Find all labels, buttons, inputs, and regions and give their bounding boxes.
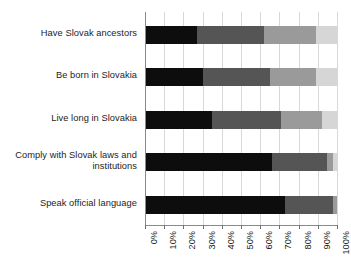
x-tick-label-20: 20% (187, 231, 197, 249)
bar-segment-1 (145, 68, 203, 86)
bar-row (145, 68, 337, 86)
bar-segment-1 (145, 196, 285, 214)
bar-segment-2 (212, 111, 281, 129)
x-tick-30 (203, 225, 204, 229)
x-tick-label-50: 50% (245, 231, 255, 249)
bar-segment-4 (316, 26, 337, 44)
x-tick-label-60: 60% (264, 231, 274, 249)
y-axis-category-labels: Have Slovak ancestors Be born in Slovaki… (0, 12, 141, 225)
bar-segment-3 (264, 26, 316, 44)
x-tick-label-10: 10% (168, 231, 178, 249)
x-axis-tick-labels: 0%10%20%30%40%50%60%70%80%90%100% (145, 231, 337, 271)
bar-segment-2 (203, 68, 270, 86)
x-tick-50 (241, 225, 242, 229)
y-axis-label-1: Be born in Slovakia (0, 70, 137, 81)
y-axis-label-2: Live long in Slovakia (0, 113, 137, 124)
x-tick-90 (318, 225, 319, 229)
bar-segment-3 (270, 68, 316, 86)
bar-row (145, 26, 337, 44)
bar-segment-1 (145, 153, 272, 171)
bar-segment-1 (145, 26, 197, 44)
gridline-100 (337, 12, 338, 225)
bar-segment-2 (272, 153, 328, 171)
bar-segment-3 (281, 111, 321, 129)
x-tick-label-30: 30% (207, 231, 217, 249)
bar-row (145, 196, 337, 214)
bar-segment-3 (333, 196, 337, 214)
bar-segment-4 (316, 68, 337, 86)
y-axis-line (145, 12, 146, 225)
bar-row (145, 111, 337, 129)
plot-area (145, 12, 337, 225)
x-tick-label-0: 0% (149, 231, 159, 244)
x-tick-label-100: 100% (341, 231, 351, 255)
bar-segment-1 (145, 111, 212, 129)
x-tick-40 (222, 225, 223, 229)
x-tick-label-80: 80% (303, 231, 313, 249)
y-axis-label-0: Have Slovak ancestors (0, 28, 137, 39)
x-tick-100 (337, 225, 338, 229)
bar-segment-4 (333, 153, 337, 171)
x-tick-70 (279, 225, 280, 229)
x-tick-60 (260, 225, 261, 229)
x-tick-80 (299, 225, 300, 229)
x-tick-10 (164, 225, 165, 229)
y-axis-label-3: Comply with Slovak laws and institutions (0, 150, 137, 172)
x-tick-label-40: 40% (226, 231, 236, 249)
x-tick-label-90: 90% (322, 231, 332, 249)
x-tick-0 (145, 225, 146, 229)
x-tick-20 (183, 225, 184, 229)
y-axis-label-4: Speak official language (0, 198, 137, 209)
bar-segment-2 (197, 26, 264, 44)
x-tick-label-70: 70% (283, 231, 293, 249)
bar-segment-2 (285, 196, 333, 214)
bar-row (145, 153, 337, 171)
bar-segment-4 (322, 111, 337, 129)
